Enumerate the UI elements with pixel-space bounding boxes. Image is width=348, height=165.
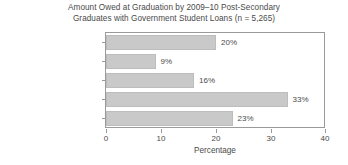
bar-3 [106,92,288,107]
x-axis-tick [325,129,326,133]
bar-4 [106,111,233,126]
bar-chart-figure: Amount Owed at Graduation by 2009–10 Pos… [0,0,348,165]
chart-title-line-2: Graduates with Government Student Loans … [0,13,348,24]
bar-row: $25,000 or more 23% [106,111,324,126]
x-axis-tick-label: 20 [196,134,236,143]
bar-row: $0 20% [106,35,324,50]
bar-1 [106,54,156,69]
bar-2 [106,73,194,88]
x-axis-tick-label: 30 [251,134,291,143]
bar-value-label: 33% [293,93,309,106]
bar-row: $5,000 to $9,999 16% [106,73,324,88]
x-axis-tick-label: 10 [141,134,181,143]
plot-area: $0 20% $1 to $4,999 9% $5,000 to $9,999 … [105,32,325,128]
x-axis-tick-label: 0 [86,134,126,143]
bar-row: $1 to $4,999 9% [106,54,324,69]
bar-value-label: 23% [238,112,254,125]
x-axis-tick [161,129,162,133]
bar-row: $10,000 to $24,999 33% [106,92,324,107]
x-axis-tick-label: 40 [305,134,345,143]
chart-title-line-1: Amount Owed at Graduation by 2009–10 Pos… [0,2,348,13]
x-axis-title: Percentage [105,146,325,155]
x-axis-tick [271,129,272,133]
bar-0 [106,35,216,50]
bar-value-label: 16% [199,74,215,87]
x-axis-tick [216,129,217,133]
bar-value-label: 9% [161,55,173,68]
x-axis-tick [106,129,107,133]
plot-inner: $0 20% $1 to $4,999 9% $5,000 to $9,999 … [106,33,324,127]
chart-title: Amount Owed at Graduation by 2009–10 Pos… [0,2,348,24]
bar-value-label: 20% [221,36,237,49]
